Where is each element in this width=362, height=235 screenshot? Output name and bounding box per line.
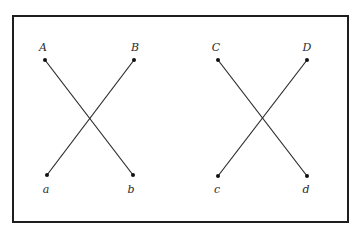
left-cross xyxy=(43,58,136,177)
figure-caption: FIGURE xyxy=(163,233,199,235)
line-B-to-a xyxy=(47,60,134,175)
point-B xyxy=(132,58,136,62)
diagram-svg xyxy=(0,0,362,235)
figure-canvas: A B a b C D c d FIGURE xyxy=(0,0,362,235)
label-A: A xyxy=(39,42,47,53)
point-c xyxy=(216,174,220,178)
point-A xyxy=(43,58,47,62)
right-cross xyxy=(216,58,309,178)
label-d: d xyxy=(302,184,309,195)
label-c: c xyxy=(214,184,220,195)
label-b: b xyxy=(127,184,134,195)
point-D xyxy=(305,58,309,62)
label-C: C xyxy=(212,42,220,53)
point-b xyxy=(131,173,135,177)
figure-frame xyxy=(13,16,348,222)
line-A-to-b xyxy=(45,60,133,175)
point-a xyxy=(45,173,49,177)
point-C xyxy=(216,58,220,62)
label-a: a xyxy=(43,184,50,195)
label-B: B xyxy=(131,42,139,53)
point-d xyxy=(305,174,309,178)
label-D: D xyxy=(303,42,312,53)
